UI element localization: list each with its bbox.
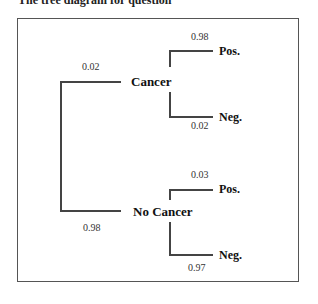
no-cancer-neg-vertical [169,222,171,255]
node-cancer: Cancer [131,75,171,88]
cancer-neg-vertical [169,92,171,117]
leaf-no-cancer-pos: Pos. [219,183,240,195]
no-cancer-neg-horizontal [169,254,213,256]
leaf-cancer-neg: Neg. [219,111,242,123]
no-cancer-pos-vertical [169,189,171,200]
leaf-no-cancer-neg: Neg. [219,249,242,261]
root-vertical-line [60,81,62,211]
probability-cancer-neg: 0.02 [191,121,209,131]
no-cancer-pos-horizontal [169,189,213,191]
cancer-pos-horizontal [169,50,213,52]
cancer-neg-horizontal [169,116,213,118]
probability-cancer: 0.02 [82,62,100,72]
probability-no-cancer: 0.98 [83,223,101,233]
leaf-cancer-pos: Pos. [219,45,240,57]
probability-no-cancer-neg: 0.97 [188,263,206,273]
node-no-cancer: No Cancer [133,205,193,218]
probability-no-cancer-pos: 0.03 [191,170,209,180]
branch-line-no-cancer [60,210,121,212]
diagram-caption: The tree diagram for question [18,0,172,8]
cancer-pos-vertical [169,50,171,67]
probability-cancer-pos: 0.98 [191,32,209,42]
branch-line-cancer [60,81,121,83]
